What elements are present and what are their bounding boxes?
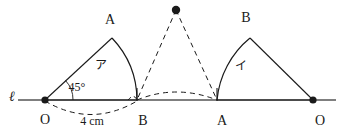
geometry-figure: ℓ O 45° 4 cm A ア B A イ B O bbox=[0, 0, 342, 135]
sector-end-radius-ob bbox=[250, 38, 313, 100]
label-point-right-apex-b: B bbox=[241, 11, 250, 25]
label-point-left-apex-a: A bbox=[105, 13, 115, 27]
label-region-a: ア bbox=[95, 59, 107, 71]
sector-middle-radius-left bbox=[137, 10, 176, 100]
roll-path-arc-4cm bbox=[45, 101, 137, 115]
geometry-canvas bbox=[0, 0, 342, 135]
label-point-a-bottom: A bbox=[217, 114, 227, 128]
label-line-l: ℓ bbox=[9, 90, 15, 104]
vertex-dot-right-o bbox=[309, 96, 316, 103]
label-angle-45: 45° bbox=[69, 81, 86, 93]
sector-start-arc-ab bbox=[112, 38, 137, 100]
label-point-left-o: O bbox=[40, 113, 50, 127]
vertex-dot-middle-apex bbox=[172, 6, 180, 14]
label-region-i: イ bbox=[235, 60, 247, 72]
sector-middle-arc bbox=[137, 92, 217, 100]
label-length-4cm: 4 cm bbox=[80, 115, 104, 127]
label-point-right-o: O bbox=[315, 114, 325, 128]
sector-middle-radius-right bbox=[176, 10, 217, 100]
label-point-b-bottom: B bbox=[138, 114, 147, 128]
